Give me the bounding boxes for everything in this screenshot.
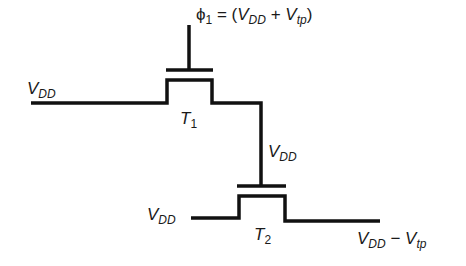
t2-channel	[191, 196, 380, 221]
mid-vdd-label: VDD	[268, 143, 297, 163]
circuit-wires	[0, 0, 466, 266]
t2-input-vdd-label: VDD	[147, 206, 176, 226]
t2-label: T2	[254, 226, 271, 246]
gate-voltage-label: ϕ1 = (VDD + Vtp)	[196, 6, 312, 26]
left-vdd-label: VDD	[27, 80, 56, 100]
output-voltage-label: VDD − Vtp	[357, 230, 426, 250]
t1-channel	[31, 80, 261, 185]
circuit-diagram: ϕ1 = (VDD + Vtp) VDD T1 VDD VDD T2 VDD −…	[0, 0, 466, 266]
t1-label: T1	[180, 110, 197, 130]
